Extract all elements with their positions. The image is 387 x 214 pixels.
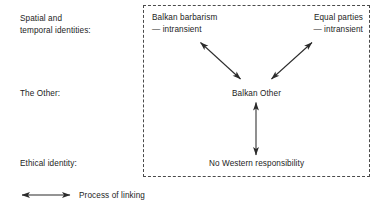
row-label-spatial-temporal-identities: Spatial and temporal identities: (20, 13, 91, 36)
node-balkan-other: Balkan Other (143, 88, 370, 100)
legend-double-headed-arrow-icon (18, 188, 74, 202)
node-equal-parties: Equal parties — intransient (262, 12, 363, 35)
diagram-figure: Spatial and temporal identities: The Oth… (0, 0, 387, 214)
node-balkan-barbarism: Balkan barbarism — intransient (152, 12, 217, 35)
row-label-the-other: The Other: (20, 88, 60, 100)
node-no-western-responsibility: No Western responsibility (143, 158, 370, 170)
row-label-ethical-identity: Ethical identity: (20, 158, 77, 170)
legend-label: Process of linking (79, 190, 145, 202)
